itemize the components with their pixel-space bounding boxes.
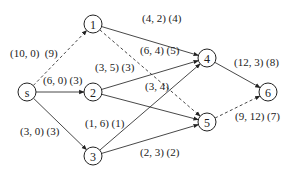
node-label: 2 bbox=[90, 86, 96, 100]
node-label: 3 bbox=[90, 150, 96, 164]
edge-1-5 bbox=[100, 30, 200, 116]
edge-label-s-2: (6, 0) (3) bbox=[43, 74, 83, 87]
edge-label-3-5: (2, 3) (2) bbox=[140, 146, 180, 159]
node-1: 1 bbox=[84, 15, 102, 33]
edge-label-5-6: (9, 12) (7) bbox=[235, 110, 280, 123]
edge-label-2-5: (3, 4) bbox=[145, 80, 169, 93]
node-label: 4 bbox=[204, 52, 210, 66]
edge-labels-layer: (10, 0) (9)(6, 0) (3)(3, 0) (3)(4, 2) (4… bbox=[10, 12, 280, 159]
edge-label-1-5: (6, 4) (5) bbox=[140, 44, 180, 57]
node-2: 2 bbox=[84, 83, 102, 101]
node-s: s bbox=[18, 83, 36, 101]
edge-3-4 bbox=[100, 64, 200, 150]
node-6: 6 bbox=[259, 83, 277, 101]
node-label: s bbox=[25, 86, 30, 100]
node-4: 4 bbox=[198, 49, 216, 67]
edge-label-s-1: (10, 0) (9) bbox=[10, 47, 58, 60]
edge-label-4-6: (12, 3) (8) bbox=[234, 56, 279, 69]
flow-network-diagram: (10, 0) (9)(6, 0) (3)(3, 0) (3)(4, 2) (4… bbox=[0, 0, 295, 172]
edge-label-1-4: (4, 2) (4) bbox=[142, 12, 182, 25]
edge-label-s-3: (3, 0) (3) bbox=[20, 125, 60, 138]
node-label: 1 bbox=[90, 18, 96, 32]
edge-s-3 bbox=[33, 98, 86, 149]
node-3: 3 bbox=[84, 147, 102, 165]
edge-label-2-4: (3, 5) (3) bbox=[95, 61, 135, 74]
node-label: 5 bbox=[204, 116, 210, 130]
node-label: 6 bbox=[265, 86, 271, 100]
node-5: 5 bbox=[198, 113, 216, 131]
edge-label-3-4: (1, 6) (1) bbox=[85, 117, 125, 130]
